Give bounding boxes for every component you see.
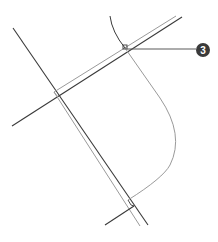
light-line-ascending: [54, 16, 176, 92]
dark-line-bottom: [105, 206, 134, 225]
callout-badge-3: 3: [196, 43, 210, 57]
rounded-outline: [125, 48, 176, 200]
light-line-descending: [54, 92, 140, 226]
technical-diagram: 3: [0, 0, 218, 242]
dark-line-descending: [13, 28, 148, 225]
dark-line-ascending: [12, 17, 182, 126]
curve-top: [110, 16, 125, 48]
callout-label: 3: [200, 45, 206, 56]
